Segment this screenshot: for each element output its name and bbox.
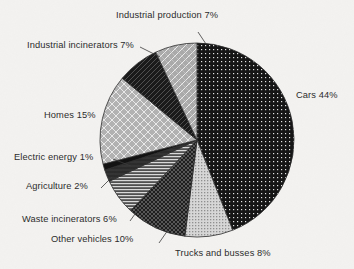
slice-label-trucks-and-busses: Trucks and busses 8% xyxy=(175,248,271,259)
slice-label-cars: Cars 44% xyxy=(296,90,338,101)
slice-label-waste-incinerators: Waste incinerators 6% xyxy=(22,214,117,225)
leader-other-vehicles xyxy=(159,230,168,243)
pie-chart: Industrial production 7% Industrial inci… xyxy=(0,0,354,269)
pie-slices xyxy=(100,43,294,237)
slice-label-agriculture: Agriculture 2% xyxy=(26,181,88,192)
slice-label-electric-energy: Electric energy 1% xyxy=(14,152,93,163)
leader-industrial-production xyxy=(198,32,206,44)
slice-label-homes: Homes 15% xyxy=(44,110,96,121)
slice-label-other-vehicles: Other vehicles 10% xyxy=(51,234,133,245)
slice-label-industrial-production: Industrial production 7% xyxy=(116,10,218,21)
slice-label-industrial-incinerators: Industrial incinerators 7% xyxy=(27,40,134,51)
